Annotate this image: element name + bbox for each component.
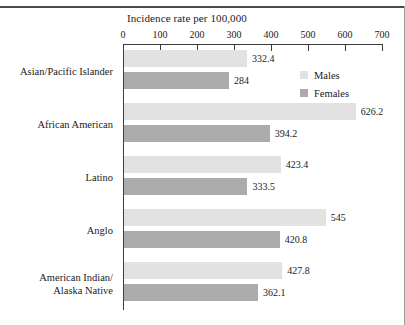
bar-chart-figure: Incidence rate per 100,000 0100200300400… bbox=[0, 0, 405, 325]
bar-row-males: 545 bbox=[124, 209, 346, 226]
category-label-line: American Indian/ bbox=[39, 271, 113, 284]
bar-value-label: 420.8 bbox=[285, 231, 308, 248]
axis-tick-label-0: 0 bbox=[121, 29, 126, 40]
bar-pair: 427.8362.1 bbox=[124, 257, 405, 310]
bar-row-females: 333.5 bbox=[124, 178, 275, 195]
category-label: Anglo bbox=[0, 204, 118, 257]
bar-row-females: 420.8 bbox=[124, 231, 307, 248]
axis-tick-label-200: 200 bbox=[190, 29, 205, 40]
category-label: Latino bbox=[0, 151, 118, 204]
category-label-line: Alaska Native bbox=[53, 284, 113, 297]
bar-group: American Indian/Alaska Native427.8362.1 bbox=[0, 257, 405, 310]
bar-pair: 626.2394.2 bbox=[124, 98, 405, 151]
axis-tick-label-100: 100 bbox=[153, 29, 168, 40]
bar-value-label: 423.4 bbox=[286, 156, 309, 173]
bar-males bbox=[124, 103, 356, 120]
bar-value-label: 626.2 bbox=[361, 103, 384, 120]
bar-value-label: 394.2 bbox=[275, 125, 298, 142]
bar-females bbox=[124, 231, 280, 248]
bar-pair: 423.4333.5 bbox=[124, 151, 405, 204]
bar-females bbox=[124, 178, 247, 195]
bar-males bbox=[124, 262, 282, 279]
bar-row-females: 284 bbox=[124, 72, 249, 89]
legend-label: Females bbox=[314, 88, 349, 99]
bar-group: Latino423.4333.5 bbox=[0, 151, 405, 204]
bar-row-males: 423.4 bbox=[124, 156, 308, 173]
category-label-line: African American bbox=[37, 118, 113, 131]
bar-value-label: 332.4 bbox=[252, 50, 275, 67]
bar-males bbox=[124, 50, 247, 67]
axis-tick-label-500: 500 bbox=[301, 29, 316, 40]
category-label-line: Latino bbox=[86, 171, 113, 184]
bar-row-females: 362.1 bbox=[124, 284, 285, 301]
bar-females bbox=[124, 284, 258, 301]
axis-tick-label-300: 300 bbox=[227, 29, 242, 40]
bar-males bbox=[124, 209, 326, 226]
bar-females bbox=[124, 72, 229, 89]
category-label: Asian/Pacific Islander bbox=[0, 45, 118, 98]
bar-group: Anglo545420.8 bbox=[0, 204, 405, 257]
legend-swatch-males bbox=[300, 71, 308, 79]
bar-males bbox=[124, 156, 281, 173]
category-label-line: Anglo bbox=[87, 224, 113, 237]
bar-value-label: 284 bbox=[234, 72, 249, 89]
bar-value-label: 362.1 bbox=[263, 284, 286, 301]
top-rule-divider bbox=[0, 6, 405, 8]
legend-item: Males bbox=[300, 67, 400, 83]
bar-row-females: 394.2 bbox=[124, 125, 297, 142]
axis-tick-label-400: 400 bbox=[264, 29, 279, 40]
legend-label: Males bbox=[314, 70, 340, 81]
axis-tick-label-700: 700 bbox=[375, 29, 390, 40]
chart-legend: MalesFemales bbox=[300, 67, 400, 103]
bar-row-males: 427.8 bbox=[124, 262, 310, 279]
bar-females bbox=[124, 125, 270, 142]
bar-group: African American626.2394.2 bbox=[0, 98, 405, 151]
axis-tick-label-600: 600 bbox=[338, 29, 353, 40]
legend-swatch-females bbox=[300, 89, 308, 97]
category-label: African American bbox=[0, 98, 118, 151]
bar-row-males: 332.4 bbox=[124, 50, 274, 67]
bar-pair: 545420.8 bbox=[124, 204, 405, 257]
legend-item: Females bbox=[300, 85, 400, 101]
bar-value-label: 427.8 bbox=[287, 262, 310, 279]
category-label-line: Asian/Pacific Islander bbox=[20, 65, 113, 78]
bar-value-label: 333.5 bbox=[252, 178, 275, 195]
bar-row-males: 626.2 bbox=[124, 103, 383, 120]
bar-value-label: 545 bbox=[331, 209, 346, 226]
category-label: American Indian/Alaska Native bbox=[0, 257, 118, 310]
chart-title: Incidence rate per 100,000 bbox=[127, 12, 247, 24]
